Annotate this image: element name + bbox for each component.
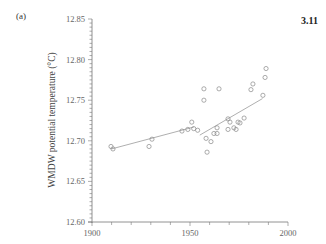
- data-point: [205, 150, 209, 154]
- y-tick-label: 12.85: [66, 14, 85, 24]
- data-point: [249, 88, 253, 92]
- data-point: [228, 120, 232, 124]
- data-point: [190, 120, 194, 124]
- trend-line: [112, 127, 194, 149]
- y-tick-label: 12.65: [66, 176, 85, 186]
- data-point: [251, 82, 255, 86]
- data-point: [261, 93, 265, 97]
- data-point: [264, 66, 268, 70]
- data-point: [242, 116, 246, 120]
- data-points: [109, 66, 268, 154]
- data-point: [215, 131, 219, 135]
- data-point: [204, 136, 208, 140]
- data-point: [196, 128, 200, 132]
- data-point: [202, 98, 206, 102]
- trend-lines: [112, 99, 263, 149]
- data-point: [202, 87, 206, 91]
- data-point: [209, 140, 213, 144]
- trend-line: [200, 99, 263, 136]
- data-point: [263, 75, 267, 79]
- x-tick-label: 1900: [84, 228, 101, 238]
- y-tick-label: 12.70: [66, 136, 85, 146]
- x-tick-label: 1950: [182, 228, 199, 238]
- data-point: [217, 87, 221, 91]
- y-tick-label: 12.75: [66, 95, 85, 105]
- scatter-chart: 12.6012.6512.7012.7512.8012.851900195020…: [0, 0, 326, 244]
- axes: 12.6012.6512.7012.7512.8012.851900195020…: [66, 14, 297, 238]
- data-point: [226, 127, 230, 131]
- data-point: [180, 129, 184, 133]
- data-point: [186, 127, 190, 131]
- data-point: [147, 144, 151, 148]
- data-point: [215, 126, 219, 130]
- data-point: [150, 137, 154, 141]
- x-tick-label: 2000: [280, 228, 297, 238]
- y-tick-label: 12.60: [66, 217, 85, 227]
- y-tick-label: 12.80: [66, 55, 85, 65]
